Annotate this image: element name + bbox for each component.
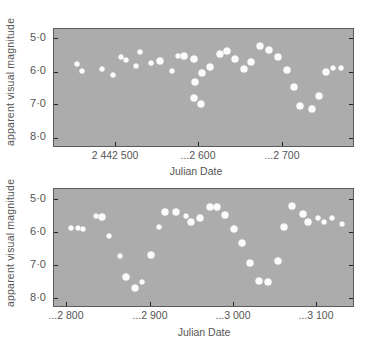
x-tick-mark — [316, 302, 317, 306]
data-point — [230, 225, 237, 232]
x-tick-mark — [66, 302, 67, 306]
data-point — [188, 218, 195, 225]
y-tick-mark-right — [349, 265, 353, 266]
x-tick-label: ...2 900 — [132, 309, 167, 321]
y-tick-mark — [54, 199, 58, 200]
y-tick-mark-right — [349, 298, 353, 299]
data-point — [147, 252, 154, 259]
data-point — [98, 214, 105, 221]
data-point — [288, 202, 295, 209]
data-point — [264, 279, 271, 286]
data-point — [196, 214, 203, 221]
x-axis-label: Julian Date — [178, 326, 231, 338]
y-tick-mark — [54, 298, 58, 299]
y-tick-mark-right — [349, 199, 353, 200]
x-tick-mark — [233, 302, 234, 306]
data-point — [80, 227, 85, 232]
y-tick-label: 8·0 — [24, 291, 46, 303]
data-point — [161, 209, 168, 216]
y-tick-mark — [54, 265, 58, 266]
data-point — [68, 226, 73, 231]
data-point — [107, 233, 112, 238]
y-axis-label: apparent visual magnitude — [4, 187, 16, 307]
data-point — [172, 208, 179, 215]
x-tick-label: ...3 000 — [215, 309, 250, 321]
data-point — [305, 218, 312, 225]
x-tick-mark — [150, 302, 151, 306]
data-point — [117, 254, 122, 259]
plot-area — [53, 188, 354, 307]
light-curve-panel-bottom: apparent visual magnitude 5·0 6·0 7·0 8·… — [0, 0, 367, 350]
data-point — [222, 211, 229, 218]
data-point — [300, 210, 307, 217]
data-point — [140, 279, 145, 284]
data-point — [247, 260, 254, 267]
data-point — [339, 221, 344, 226]
data-point — [329, 215, 334, 220]
y-tick-mark — [54, 232, 58, 233]
data-point — [274, 258, 281, 265]
y-tick-label: 5·0 — [24, 192, 46, 204]
x-tick-label: ...2 800 — [48, 309, 83, 321]
data-point — [206, 204, 213, 211]
x-tick-label: ...3 100 — [298, 309, 333, 321]
data-point — [214, 204, 221, 211]
data-point — [256, 277, 263, 284]
data-point — [122, 273, 129, 280]
data-point — [316, 215, 321, 220]
y-tick-label: 6·0 — [24, 225, 46, 237]
data-point — [238, 240, 245, 247]
data-point — [131, 285, 138, 292]
data-point — [184, 214, 189, 219]
data-point — [281, 223, 288, 230]
y-tick-mark-right — [349, 232, 353, 233]
data-point — [156, 225, 161, 230]
data-point — [322, 219, 327, 224]
y-tick-label: 7·0 — [24, 258, 46, 270]
